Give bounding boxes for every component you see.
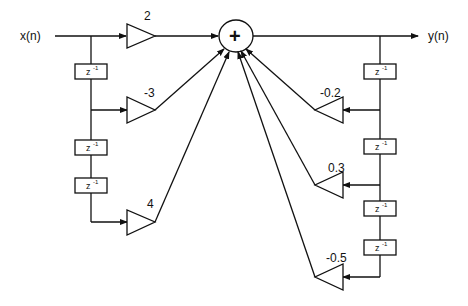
- delay-block-fb-2: z -1: [364, 139, 396, 154]
- output-label: y(n): [428, 29, 449, 43]
- summing-node: +: [219, 20, 253, 52]
- svg-text:-1: -1: [382, 202, 388, 208]
- svg-text:z: z: [375, 243, 380, 253]
- gain-ff-3: 4: [127, 197, 155, 235]
- delay-block-ff-1: z -1: [75, 64, 107, 79]
- delay-block-fb-1: z -1: [364, 64, 396, 79]
- svg-text:-0.2: -0.2: [320, 86, 341, 100]
- svg-text:-1: -1: [382, 241, 388, 247]
- svg-text:0.3: 0.3: [328, 161, 345, 175]
- fb-wire-2: [241, 51, 315, 185]
- svg-text:z: z: [86, 143, 91, 153]
- svg-text:-1: -1: [93, 65, 99, 71]
- delay-block-ff-2: z -1: [75, 140, 107, 155]
- gain-fb-2: 0.3: [315, 161, 345, 198]
- svg-text:z: z: [375, 204, 380, 214]
- svg-text:-0.5: -0.5: [326, 251, 347, 265]
- svg-text:z: z: [86, 67, 91, 77]
- svg-text:2: 2: [144, 9, 151, 23]
- delay-block-fb-3: z -1: [364, 201, 396, 216]
- svg-text:-1: -1: [93, 179, 99, 185]
- svg-text:z: z: [86, 181, 91, 191]
- gain-fb-3: -0.5: [315, 251, 347, 290]
- input-label: x(n): [20, 29, 41, 43]
- svg-text:+: +: [229, 25, 241, 47]
- svg-text:-1: -1: [93, 141, 99, 147]
- svg-text:-1: -1: [382, 140, 388, 146]
- gain-ff-1: 2: [127, 9, 155, 48]
- svg-text:-3: -3: [144, 86, 155, 100]
- gain-fb-1: -0.2: [315, 86, 343, 123]
- signal-flow-diagram: x(n) z -1 z -1 z -1 2 -3 4 +: [0, 0, 468, 306]
- gain-ff-2: -3: [127, 86, 155, 123]
- svg-text:z: z: [375, 67, 380, 77]
- svg-text:4: 4: [147, 197, 154, 211]
- svg-text:-1: -1: [382, 65, 388, 71]
- svg-text:z: z: [375, 142, 380, 152]
- delay-block-fb-4: z -1: [364, 240, 396, 255]
- delay-block-ff-3: z -1: [75, 178, 107, 193]
- ff-wire-2: [155, 49, 224, 110]
